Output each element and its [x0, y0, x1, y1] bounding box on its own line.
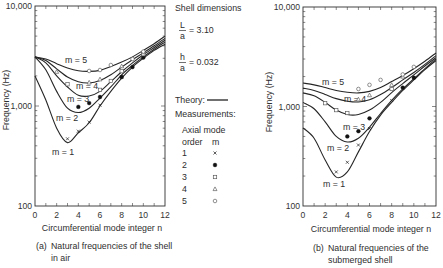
filled-circle-marker-icon	[76, 105, 80, 109]
measurements-label: Measurements:	[175, 109, 236, 119]
cross-marker-icon	[214, 152, 217, 155]
plot-frame	[303, 7, 436, 206]
caption-right: (b) Natural frequencies of the submerged…	[313, 243, 429, 265]
circle-marker-icon	[213, 199, 217, 203]
cross-marker-icon	[214, 152, 217, 155]
x-tick-label: 8	[389, 210, 394, 220]
triangle-marker-icon	[368, 93, 372, 97]
ratio-L-over-a: L a = 3.10	[179, 20, 214, 41]
order-header: order	[182, 137, 203, 147]
square-marker-icon	[335, 108, 338, 111]
triangle-marker-icon	[98, 77, 102, 81]
x-tick-label: 8	[119, 210, 124, 220]
y-tick-label: 100	[18, 201, 33, 211]
cross-marker-icon	[66, 137, 69, 140]
legend-row: 1	[182, 148, 217, 158]
circle-marker-icon	[357, 87, 361, 91]
caption-right-tag: (b)	[313, 243, 324, 253]
filled-circle-marker-icon	[131, 65, 135, 69]
filled-circle-marker-icon	[87, 101, 91, 105]
x-tick-label: 6	[367, 210, 372, 220]
figure: 1001,00010,000024681012m = 1m = 2m = 3m …	[0, 0, 443, 268]
ratio-value: = 0.032	[189, 57, 219, 67]
x-axis-title-right: Circumferential mode integer n	[311, 224, 431, 234]
circle-marker-icon	[412, 65, 416, 69]
circle-marker-icon	[379, 78, 383, 82]
circle-marker-icon	[98, 68, 102, 72]
curve-label: m = 3	[343, 122, 365, 132]
filled-circle-marker-icon	[213, 163, 217, 167]
circle-marker-icon	[368, 83, 372, 87]
square-marker-icon	[346, 111, 349, 114]
x-axis-title-left: Circumferential mode integer n	[42, 223, 162, 233]
axial-mode-header: Axial mode	[182, 125, 226, 135]
circle-marker-icon	[109, 63, 113, 67]
curve-label: m = 4	[344, 94, 366, 104]
cross-marker-icon	[357, 144, 360, 147]
caption-left: (a) Natural frequencies of the shell in …	[36, 241, 172, 263]
x-tick-label: 12	[431, 210, 441, 220]
x-tick-label: 6	[98, 210, 103, 220]
curve-label: m = 5	[322, 77, 344, 87]
x-tick-label: 4	[76, 210, 81, 220]
curve-label: m = 1	[52, 147, 74, 157]
caption-right-line2: submerged shell	[328, 255, 393, 265]
caption-left-tag: (a)	[36, 241, 47, 251]
x-tick-label: 4	[345, 210, 350, 220]
y-axis-title-left: Frequency (Hz)	[1, 70, 11, 131]
circle-marker-icon	[131, 57, 135, 61]
curve-label: m = 4	[76, 81, 98, 91]
ratio-numerator: L	[180, 20, 185, 30]
legend-order: 3	[182, 172, 187, 182]
axis-ticks	[303, 7, 436, 206]
legend: Shell dimensions L a = 3.10 h a = 0.032 …	[175, 3, 242, 206]
legend-row: 5	[182, 196, 217, 206]
caption-right-line1: Natural frequencies of the	[328, 243, 429, 253]
theory-label: Theory:	[175, 95, 205, 105]
filled-circle-marker-icon	[401, 86, 405, 90]
x-tick-label: 0	[301, 210, 306, 220]
square-marker-icon	[213, 175, 216, 178]
filled-circle-marker-icon	[213, 163, 217, 167]
curve-label: m = 3	[67, 94, 89, 104]
caption-left-line2: in air	[51, 253, 70, 263]
circle-marker-icon	[87, 69, 91, 73]
ratio-denominator: a	[180, 31, 185, 41]
x-tick-label: 10	[139, 210, 149, 220]
legend-row: 2	[182, 160, 217, 170]
triangle-marker-icon	[390, 83, 394, 87]
shell-dimensions-title: Shell dimensions	[175, 3, 242, 13]
y-axis-title-right: Frequency (Hz)	[264, 72, 274, 133]
square-marker-icon	[66, 83, 69, 86]
filled-circle-marker-icon	[98, 95, 102, 99]
theory-curve	[35, 44, 165, 143]
ratio-h-over-a: h a = 0.032	[179, 52, 219, 73]
legend-row: 4	[182, 184, 217, 194]
curve-label: m = 1	[323, 179, 345, 189]
square-marker-icon	[98, 88, 101, 91]
theory-curve	[35, 38, 165, 83]
legend-order: 1	[182, 148, 187, 158]
ratio-denominator: a	[180, 63, 185, 73]
legend-order: 2	[182, 160, 187, 170]
cross-marker-icon	[335, 170, 338, 173]
filled-circle-marker-icon	[141, 56, 145, 60]
square-marker-icon	[109, 79, 112, 82]
ratio-value: = 3.10	[189, 25, 214, 35]
curve-label: m = 2	[56, 113, 78, 123]
legend-row: 3	[182, 172, 217, 182]
cross-marker-icon	[346, 161, 349, 164]
circle-marker-icon	[142, 50, 146, 54]
ratio-numerator: h	[180, 52, 185, 62]
curve-label: m = 2	[327, 143, 349, 153]
filled-circle-marker-icon	[368, 116, 372, 120]
filled-circle-marker-icon	[412, 76, 416, 80]
curve-label: m = 5	[65, 55, 87, 65]
y-tick-label: 10,000	[274, 2, 301, 12]
square-marker-icon	[390, 87, 393, 90]
m-header: m	[212, 137, 219, 147]
x-tick-label: 10	[409, 210, 419, 220]
square-marker-icon	[323, 101, 326, 104]
x-tick-label: 2	[323, 210, 328, 220]
square-marker-icon	[120, 69, 123, 72]
